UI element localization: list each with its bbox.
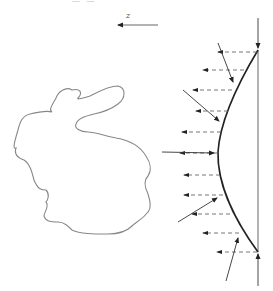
bunny-silhouette bbox=[14, 86, 150, 234]
incident-ray-arrow bbox=[162, 152, 214, 153]
bunny-outline bbox=[14, 86, 150, 234]
lens-surface-curve bbox=[218, 50, 258, 252]
incident-ray-arrow bbox=[218, 43, 233, 82]
incident-ray-arrow bbox=[226, 238, 238, 281]
diagram-canvas bbox=[0, 0, 273, 291]
z-axis-label: z bbox=[126, 11, 130, 20]
incident-ray-arrow bbox=[178, 198, 217, 222]
incident-rays bbox=[162, 43, 238, 281]
lens-curve bbox=[218, 50, 258, 252]
diagram: — — z bbox=[0, 0, 273, 291]
incident-ray-arrow bbox=[183, 90, 219, 121]
cropped-text-fragment: — — bbox=[72, 0, 97, 5]
